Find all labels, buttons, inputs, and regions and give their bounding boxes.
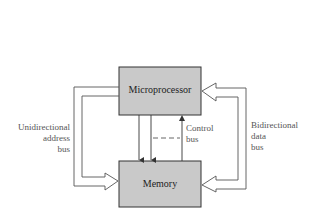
address-bus-label-line: Unidirectional: [18, 122, 70, 133]
address-bus-label-line: address: [18, 133, 70, 144]
data-bus-label: Bidirectional data bus: [251, 120, 298, 153]
microprocessor-label: Microprocessor: [119, 84, 201, 95]
control-bus-label: Control bus: [186, 123, 214, 145]
memory-label: Memory: [119, 178, 201, 189]
control-bus-label-line: bus: [186, 134, 214, 145]
address-bus-arrow: [74, 87, 119, 190]
address-bus-label: Unidirectional address bus: [18, 122, 70, 155]
address-bus-label-line: bus: [18, 144, 70, 155]
control-up-arrowhead: [179, 115, 185, 121]
data-bus-label-line: Bidirectional: [251, 120, 298, 131]
data-bus-label-line: bus: [251, 142, 298, 153]
control-bus-label-line: Control: [186, 123, 214, 134]
data-bus-label-line: data: [251, 131, 298, 142]
